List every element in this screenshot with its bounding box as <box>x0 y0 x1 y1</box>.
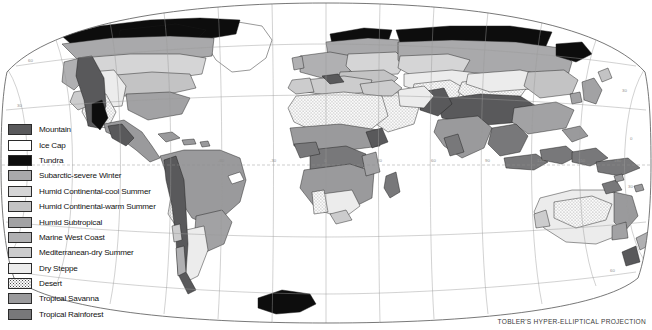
lon-label-180: 180 <box>614 158 622 163</box>
legend-swatch-marine-west-coast <box>8 232 32 243</box>
lat-label-60s-right: 60 <box>610 268 615 273</box>
legend-swatch-tundra <box>8 155 32 166</box>
region-southern-chile-marine <box>176 246 186 276</box>
lon-label-60w: -60 <box>218 158 225 163</box>
legend-item-tundra[interactable]: Tundra <box>8 153 160 168</box>
legend-label-tundra: Tundra <box>39 156 63 165</box>
legend-item-mountain[interactable]: Mountain <box>8 122 160 137</box>
legend-swatch-desert <box>8 278 32 289</box>
legend-item-subarctic[interactable]: Subarctic-severe Winter <box>8 168 160 183</box>
lon-label-120e: 120 <box>537 158 545 163</box>
legend-swatch-tropical-savanna <box>8 293 32 304</box>
legend-label-mountain: Mountain <box>39 125 71 134</box>
legend-swatch-ice-cap <box>8 140 32 151</box>
world-climate-map: 60 30 30 0 30 60 -60 -30 0 30 60 90 120 … <box>0 0 652 330</box>
legend-swatch-subarctic <box>8 170 32 181</box>
legend-swatch-humid-continental-cool <box>8 186 32 197</box>
lon-label-60e: 60 <box>431 158 436 163</box>
region-korea <box>570 92 582 104</box>
legend-swatch-mountain <box>8 124 32 135</box>
legend-label-humid-subtropical: Humid Subtropical <box>39 218 102 227</box>
legend-swatch-tropical-rainforest <box>8 309 32 320</box>
legend-label-dry-steppe: Dry Steppe <box>39 264 78 273</box>
legend-label-mediterranean: Mediterranean-dry Summer <box>39 248 134 257</box>
legend-label-subarctic: Subarctic-severe Winter <box>39 171 121 180</box>
legend-label-tropical-rainforest: Tropical Rainforest <box>39 310 103 319</box>
legend-swatch-humid-continental-warm <box>8 201 32 212</box>
legend-swatch-dry-steppe <box>8 263 32 274</box>
map-legend: Mountain Ice Cap Tundra Subarctic-severe… <box>8 122 160 322</box>
legend-label-ice-cap: Ice Cap <box>39 141 66 150</box>
legend-label-marine-west-coast: Marine West Coast <box>39 233 105 242</box>
legend-swatch-mediterranean <box>8 247 32 258</box>
lon-label-30w: -30 <box>270 158 277 163</box>
lon-label-30e: 30 <box>377 158 382 163</box>
legend-item-mediterranean[interactable]: Mediterranean-dry Summer <box>8 245 160 260</box>
legend-swatch-humid-subtropical <box>8 217 32 228</box>
legend-item-humid-subtropical[interactable]: Humid Subtropical <box>8 214 160 229</box>
legend-label-humid-continental-warm: Humid Continental-warm Summer <box>39 202 156 211</box>
legend-item-dry-steppe[interactable]: Dry Steppe <box>8 261 160 276</box>
region-chile-mediterranean <box>172 224 182 242</box>
projection-credit: TOBLER'S HYPER-ELLIPTICAL PROJECTION <box>498 318 646 325</box>
legend-item-humid-continental-cool[interactable]: Humid Continental-cool Summer <box>8 184 160 199</box>
lat-label-30n-right: 30 <box>622 88 627 93</box>
lat-label-60n: 60 <box>28 58 33 63</box>
legend-label-desert: Desert <box>39 279 62 288</box>
legend-item-humid-continental-warm[interactable]: Humid Continental-warm Summer <box>8 199 160 214</box>
region-british-isles <box>292 56 304 70</box>
legend-item-marine-west-coast[interactable]: Marine West Coast <box>8 230 160 245</box>
legend-label-tropical-savanna: Tropical Savanna <box>39 294 99 303</box>
legend-label-humid-continental-cool: Humid Continental-cool Summer <box>39 187 151 196</box>
legend-item-tropical-rainforest[interactable]: Tropical Rainforest <box>8 307 160 322</box>
legend-item-desert[interactable]: Desert <box>8 276 160 291</box>
lat-label-30n: 30 <box>17 103 22 108</box>
region-hispaniola <box>182 139 196 145</box>
legend-item-ice-cap[interactable]: Ice Cap <box>8 137 160 152</box>
lat-label-30s-right: 30 <box>628 184 633 189</box>
region-lesser-antilles <box>200 141 210 147</box>
climate-map-page: 60 30 30 0 30 60 -60 -30 0 30 60 90 120 … <box>0 0 652 330</box>
lon-label-90e: 90 <box>485 158 490 163</box>
legend-item-tropical-savanna[interactable]: Tropical Savanna <box>8 291 160 306</box>
lon-label-150e: 150 <box>578 158 586 163</box>
